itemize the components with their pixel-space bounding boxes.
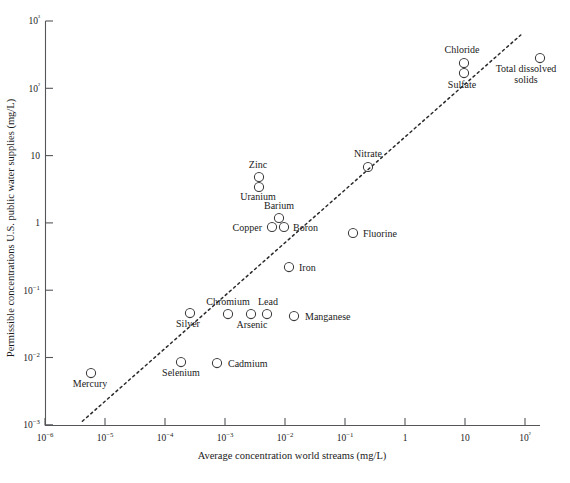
data-point-label: Fluorine xyxy=(363,228,397,239)
data-point-marker xyxy=(223,309,232,318)
tick-label: 10−2 xyxy=(277,431,294,443)
data-point-label: Copper xyxy=(233,222,263,233)
tick-label: 10−6 xyxy=(37,431,54,443)
tick-label: 10² xyxy=(519,431,531,443)
y-axis-tick-labels: 10−310−210−111010²10³ xyxy=(23,14,40,430)
data-point-label: Zinc xyxy=(249,159,268,170)
tick-label: 1 xyxy=(35,218,40,228)
data-point-label: Total dissolvedsolids xyxy=(496,63,557,85)
data-point-label: Silver xyxy=(176,318,201,329)
tick-label: 10 xyxy=(460,433,470,443)
data-point-marker xyxy=(459,68,468,77)
tick-label: 10−4 xyxy=(157,431,174,443)
data-point: Iron xyxy=(284,262,315,273)
data-point-label: Mercury xyxy=(73,378,107,389)
data-point: Fluorine xyxy=(348,228,397,239)
data-point-marker xyxy=(284,262,293,271)
data-point-label: Uranium xyxy=(240,191,276,202)
data-point-label: Nitrate xyxy=(354,148,382,159)
data-point: Selenium xyxy=(162,357,200,378)
data-point-marker xyxy=(185,308,194,317)
data-point-marker xyxy=(267,222,276,231)
data-point-marker xyxy=(535,53,544,62)
data-point: Mercury xyxy=(73,368,107,389)
data-point: Silver xyxy=(176,308,201,329)
tick-label: 10−3 xyxy=(23,418,40,430)
data-point-label: Chromium xyxy=(206,296,250,307)
tick-label: 10−3 xyxy=(217,431,234,443)
data-point-label: Iron xyxy=(299,262,316,273)
tick-label: 10 xyxy=(31,151,41,161)
data-point-label: Cadmium xyxy=(228,358,268,369)
data-point-label: Manganese xyxy=(305,311,351,322)
tick-label: 1 xyxy=(403,433,408,443)
data-point-marker xyxy=(176,357,185,366)
tick-label: 10−2 xyxy=(23,351,40,363)
tick-label: 10² xyxy=(28,82,40,94)
data-point-label: Sulfate xyxy=(448,79,477,90)
x-axis-title: Average concentration world streams (mg/… xyxy=(198,450,387,462)
data-point-label: Selenium xyxy=(162,367,200,378)
data-point: Boron xyxy=(279,222,318,233)
data-point-marker xyxy=(289,311,298,320)
x-axis-ticks xyxy=(45,418,525,426)
y-axis-title: Permissible concentrations U.S. public w… xyxy=(5,98,17,357)
data-point-marker xyxy=(246,309,255,318)
tick-label: 10−5 xyxy=(97,431,114,443)
data-point-marker xyxy=(279,222,288,231)
data-point-label: Arsenic xyxy=(236,319,268,330)
data-point-marker xyxy=(262,309,271,318)
data-point-label: Lead xyxy=(258,296,278,307)
data-point: Arsenic xyxy=(236,309,268,330)
data-point-marker xyxy=(254,172,263,181)
data-point: Uranium xyxy=(240,182,276,202)
scatter-chart-figure: 10−310−210−111010²10³ 10−610−510−410−310… xyxy=(0,0,570,483)
tick-label: 10−1 xyxy=(23,284,40,296)
data-point-marker xyxy=(274,213,283,222)
data-point: Zinc xyxy=(249,159,268,182)
tick-label: 10−1 xyxy=(337,431,354,443)
data-point: Total dissolvedsolids xyxy=(496,53,557,85)
tick-label: 10³ xyxy=(28,14,40,26)
data-point: Sulfate xyxy=(448,68,477,90)
x-axis-tick-labels: 10−610−510−410−310−210−111010² xyxy=(37,431,531,443)
data-point: Chromium xyxy=(206,296,250,319)
y-axis-ticks xyxy=(46,21,54,425)
data-point-marker xyxy=(86,368,95,377)
data-point: Chloride xyxy=(445,44,481,68)
data-point-marker xyxy=(212,358,221,367)
data-point: Barium xyxy=(264,200,294,223)
data-point: Cadmium xyxy=(212,358,267,369)
data-point-marker xyxy=(348,228,357,237)
data-point-label: Chloride xyxy=(445,44,481,55)
data-point-marker xyxy=(459,58,468,67)
data-point: Lead xyxy=(258,296,278,319)
data-point: Copper xyxy=(233,222,277,233)
data-point: Nitrate xyxy=(354,148,382,172)
data-point-label: Boron xyxy=(293,222,318,233)
chart-canvas: 10−310−210−111010²10³ 10−610−510−410−310… xyxy=(0,0,570,483)
data-point: Manganese xyxy=(289,311,351,322)
